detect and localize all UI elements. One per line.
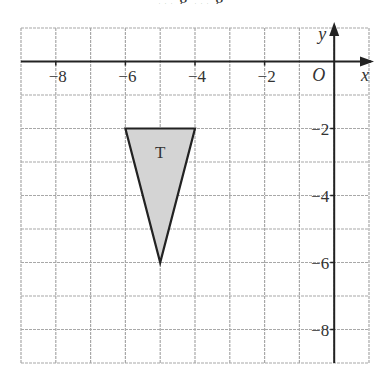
x-axis-label: x (360, 65, 369, 85)
y-axis-arrow-icon (329, 22, 339, 36)
x-tick-label: −8 (49, 67, 67, 86)
coordinate-grid: TxyO−8−6−4−2−2−4−6−8 (0, 0, 385, 374)
x-tick-label: −2 (258, 67, 276, 86)
shape-label: T (155, 143, 166, 162)
x-tick-label: −6 (118, 67, 136, 86)
coordinate-diagram: … g … g, TxyO−8−6−4−2−2−4−6−8 (0, 0, 385, 374)
y-tick-label: −4 (311, 187, 330, 206)
y-tick-label: −8 (311, 321, 329, 340)
x-tick-label: −4 (188, 67, 207, 86)
y-tick-label: −2 (311, 120, 329, 139)
y-tick-label: −6 (311, 254, 329, 273)
caption-fragment: … g … g, (0, 0, 385, 4)
y-axis-label: y (316, 24, 326, 44)
origin-label: O (312, 65, 325, 85)
